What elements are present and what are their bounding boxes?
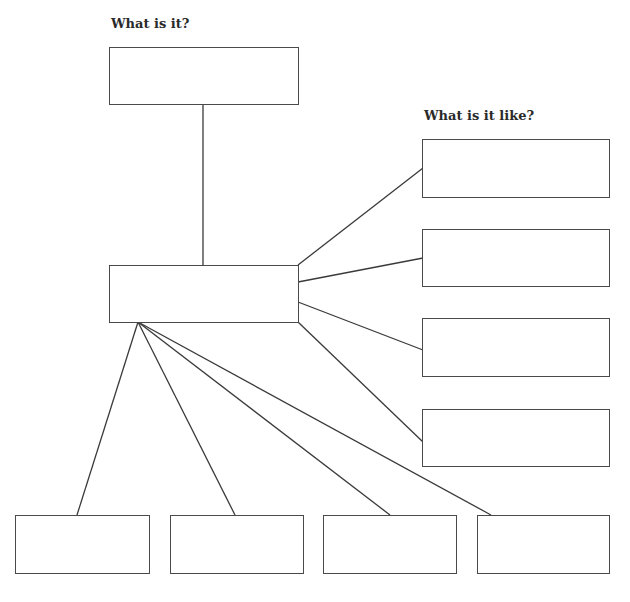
box-right-3[interactable]: [422, 318, 610, 377]
label-what-is-it: What is it?: [111, 16, 189, 31]
connector-center-right-4: [298, 322, 423, 442]
box-center[interactable]: [109, 265, 299, 323]
box-bottom-1[interactable]: [15, 515, 150, 574]
label-what-is-it-like: What is it like?: [424, 108, 534, 123]
box-right-4[interactable]: [422, 409, 610, 467]
box-top[interactable]: [109, 47, 299, 105]
connector-lines: [0, 0, 630, 602]
connector-center-right-2: [298, 258, 423, 282]
connector-center-right-3: [298, 302, 423, 350]
box-right-1[interactable]: [422, 139, 610, 198]
box-right-2[interactable]: [422, 229, 610, 287]
box-bottom-2[interactable]: [170, 515, 304, 574]
box-bottom-4[interactable]: [477, 515, 610, 574]
connector-center-bottom-1: [77, 322, 138, 515]
connector-center-right-1: [298, 168, 423, 265]
connector-center-bottom-2: [138, 322, 235, 515]
box-bottom-3[interactable]: [323, 515, 457, 574]
connector-center-bottom-3: [138, 322, 390, 515]
